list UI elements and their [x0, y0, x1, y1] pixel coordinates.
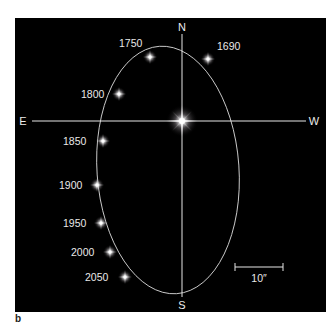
year-label-2000: 2000	[71, 246, 95, 258]
year-label-1950: 1950	[63, 217, 87, 229]
central-star-icon	[162, 101, 202, 141]
orbit-point-1690	[201, 52, 215, 66]
year-label-1690: 1690	[217, 40, 241, 52]
orbit-point-2000	[103, 245, 117, 259]
year-label-1800: 1800	[81, 88, 105, 100]
orbit-point-1850	[96, 134, 110, 148]
orbit-diagram: N S E W 1690 1750 1800	[0, 0, 336, 327]
orbit-ellipse	[89, 41, 248, 298]
scale-bar-label: 10″	[251, 272, 267, 284]
orbit-point-1750	[143, 50, 157, 64]
orbit-point-2050	[118, 270, 132, 284]
scale-bar	[235, 263, 283, 271]
year-label-1900: 1900	[59, 179, 83, 191]
orbit-point-1900	[90, 178, 104, 192]
year-label-1750: 1750	[119, 37, 143, 49]
panel-label: b	[15, 313, 21, 324]
east-label: E	[19, 115, 26, 127]
north-label: N	[178, 21, 186, 33]
west-label: W	[309, 115, 320, 127]
year-label-1850: 1850	[63, 135, 87, 147]
orbit-point-1950	[94, 216, 108, 230]
year-label-2050: 2050	[85, 271, 109, 283]
orbit-point-1800	[112, 87, 126, 101]
south-label: S	[178, 299, 185, 311]
